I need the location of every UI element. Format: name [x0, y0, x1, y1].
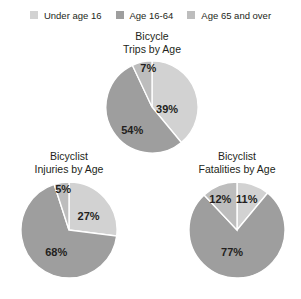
chart-title-line-1: Bicyclist — [0, 150, 140, 163]
legend: Under age 16 Age 16-64 Age 65 and over — [0, 6, 301, 24]
pie-svg-injuries — [20, 181, 118, 279]
chart-bicyclist-fatalities-by-age: Bicyclist Fatalities by Age 11% 77% 12% — [163, 150, 301, 279]
legend-label-under-age-16: Under age 16 — [44, 10, 102, 21]
pie-slices-trips — [106, 61, 198, 153]
legend-swatch-age-65-and-over — [187, 11, 195, 19]
chart-title-line-2: Trips by Age — [72, 43, 232, 56]
pie-svg-fatalities — [188, 181, 286, 279]
legend-item-age-16-64: Age 16-64 — [116, 10, 174, 21]
chart-title-line-1: Bicycle — [72, 30, 232, 43]
chart-title-line-2: Injuries by Age — [0, 163, 140, 176]
pie-slices-fatalities — [189, 182, 285, 278]
pie-chart-trips: 39% 54% 7% — [105, 60, 199, 154]
pie-chart-fatalities: 11% 77% 12% — [188, 181, 286, 279]
chart-title-bicyclist-injuries: Bicyclist Injuries by Age — [0, 150, 140, 175]
chart-title-bicyclist-fatalities: Bicyclist Fatalities by Age — [163, 150, 301, 175]
chart-bicyclist-injuries-by-age: Bicyclist Injuries by Age 27% 68% 5% — [0, 150, 140, 279]
pie-chart-injuries: 27% 68% 5% — [20, 181, 118, 279]
pie-slices-injuries — [21, 182, 117, 278]
chart-title-line-1: Bicyclist — [163, 150, 301, 163]
legend-item-under-age-16: Under age 16 — [30, 10, 102, 21]
legend-label-age-16-64: Age 16-64 — [130, 10, 174, 21]
chart-title-line-2: Fatalities by Age — [163, 163, 301, 176]
pie-svg-trips — [105, 60, 199, 154]
legend-swatch-under-age-16 — [30, 11, 38, 19]
chart-title-bicycle-trips: Bicycle Trips by Age — [72, 30, 232, 55]
legend-item-age-65-and-over: Age 65 and over — [187, 10, 271, 21]
legend-swatch-age-16-64 — [116, 11, 124, 19]
legend-label-age-65-and-over: Age 65 and over — [201, 10, 271, 21]
chart-bicycle-trips-by-age: Bicycle Trips by Age 39% 54% 7% — [72, 30, 232, 154]
pie-slice — [69, 182, 117, 236]
